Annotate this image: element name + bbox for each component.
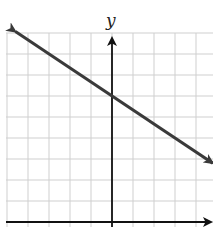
y-axis-label: y xyxy=(105,10,116,30)
grid-lines xyxy=(6,33,213,227)
plotted-line xyxy=(15,32,212,164)
coordinate-plane-graph: y xyxy=(0,0,213,227)
